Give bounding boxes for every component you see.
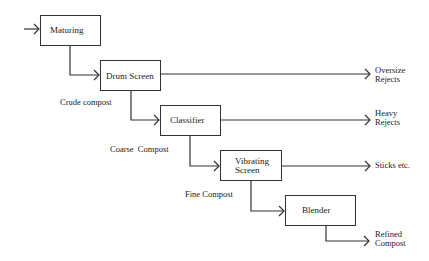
maturing-node: Maturing [40,15,101,46]
blender-node: Blender [285,195,356,226]
classifier-node: Classifier [160,105,221,136]
drum-screen-node: Drum Screen [100,60,161,91]
coarse-compost-label: Coarse Compost [110,145,169,154]
refined-compost-line2: Compost [375,239,406,248]
vibrating-screen-label-line2: Screen [235,165,260,175]
drum-screen-label: Drum Screen [106,71,154,81]
heavy-rejects-line2: Rejects [375,118,400,127]
fine-compost-label: Fine Compost [185,190,233,199]
vibrating-screen-node: Vibrating Screen [220,150,282,181]
crude-compost-label: Crude compost [60,98,112,107]
classifier-label: Classifier [170,115,205,125]
blender-label: Blender [302,205,331,215]
oversize-rejects-line2: Rejects [375,75,400,84]
maturing-label: Maturing [50,25,84,35]
sticks-label: Sticks etc. [375,161,410,170]
